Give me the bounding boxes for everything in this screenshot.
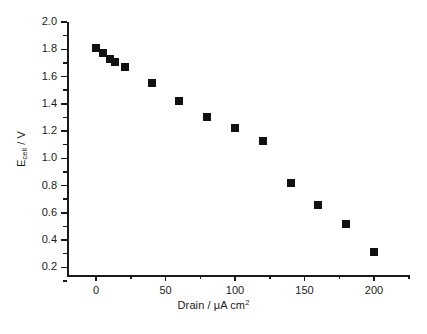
- data-point: [121, 63, 129, 71]
- y-tick-minor: [63, 62, 67, 64]
- x-tick-minor: [408, 275, 410, 279]
- y-tick-label: 1.6: [11, 70, 57, 82]
- data-point: [287, 179, 295, 187]
- y-tick-minor: [63, 117, 67, 119]
- y-tick-minor: [63, 89, 67, 91]
- y-tick-minor: [63, 253, 67, 255]
- y-tick-major: [61, 158, 67, 160]
- data-point: [111, 58, 119, 66]
- y-tick-major: [61, 212, 67, 214]
- x-tick-minor: [200, 275, 202, 279]
- y-tick-major: [61, 76, 67, 78]
- y-tick-label: 1.8: [11, 42, 57, 54]
- y-tick-minor: [63, 226, 67, 228]
- data-point: [342, 220, 350, 228]
- y-tick-label: 0.2: [11, 260, 57, 272]
- y-tick-minor: [63, 171, 67, 173]
- x-tick-label: 150: [280, 284, 330, 296]
- x-tick-label: 100: [210, 284, 260, 296]
- y-tick-major: [61, 267, 67, 269]
- y-axis-title-wrapper: Ecell / V: [11, 89, 29, 209]
- x-axis-spine: [67, 275, 410, 277]
- data-point: [148, 79, 156, 87]
- y-axis-title-subscript: cell: [20, 148, 29, 160]
- x-tick-minor: [130, 275, 132, 279]
- y-tick-major: [61, 49, 67, 51]
- data-point: [259, 137, 267, 145]
- y-tick-major: [61, 130, 67, 132]
- y-tick-label: 2.0: [11, 15, 57, 27]
- data-point: [175, 97, 183, 105]
- x-tick-major: [234, 275, 236, 281]
- x-tick-major: [304, 275, 306, 281]
- chart-figure: 0.20.40.60.81.01.21.41.61.82.00501001502…: [0, 0, 427, 334]
- y-tick-minor: [63, 198, 67, 200]
- x-axis-title: Drain / μA cm2: [0, 299, 427, 311]
- x-tick-major: [95, 275, 97, 281]
- x-tick-label: 0: [71, 284, 121, 296]
- y-tick-minor: [63, 280, 67, 282]
- x-tick-major: [165, 275, 167, 281]
- y-tick-major: [61, 185, 67, 187]
- data-point: [203, 113, 211, 121]
- y-tick-major: [61, 21, 67, 23]
- x-tick-major: [373, 275, 375, 281]
- y-axis-spine: [67, 22, 69, 275]
- y-tick-minor: [63, 144, 67, 146]
- data-point: [370, 248, 378, 256]
- y-tick-label: 0.4: [11, 233, 57, 245]
- x-axis-title-superscript: 2: [245, 298, 249, 307]
- x-tick-minor: [339, 275, 341, 279]
- x-tick-label: 200: [349, 284, 399, 296]
- data-point: [231, 124, 239, 132]
- x-tick-label: 50: [141, 284, 191, 296]
- y-tick-major: [61, 239, 67, 241]
- y-tick-major: [61, 103, 67, 105]
- data-point: [314, 201, 322, 209]
- x-tick-minor: [269, 275, 271, 279]
- y-tick-minor: [63, 35, 67, 37]
- y-axis-title: Ecell / V: [15, 131, 27, 167]
